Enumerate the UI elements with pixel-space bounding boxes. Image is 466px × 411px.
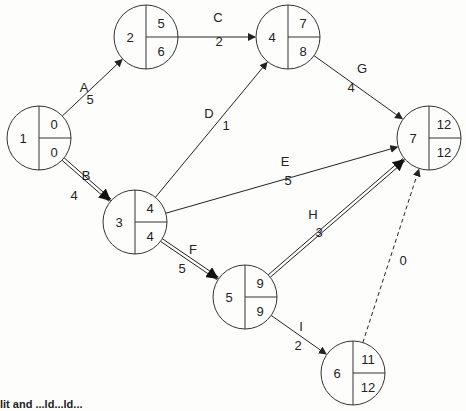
activity-duration: 2	[215, 34, 222, 49]
activity-label: B	[82, 168, 91, 183]
node-latest-time: 0	[50, 145, 57, 160]
network-diagram: A5B4C2D1E5F5G4H3I20 10025647834459971212…	[0, 0, 466, 411]
activity-F: F5	[161, 239, 219, 280]
node-earliest-time: 0	[50, 117, 57, 132]
node-earliest-time: 4	[146, 201, 153, 216]
node-id: 5	[225, 290, 232, 305]
activity-D: D1	[155, 62, 267, 197]
activity-label: E	[281, 154, 290, 169]
node-latest-time: 4	[146, 229, 153, 244]
activity-dummy: 0	[363, 169, 419, 342]
node-latest-time: 8	[299, 44, 306, 59]
node-3: 344	[103, 190, 167, 254]
activity-G: G4	[314, 56, 402, 119]
activity-label: I	[299, 319, 303, 334]
node-2: 256	[114, 5, 178, 69]
activity-duration: 1	[222, 118, 229, 133]
activity-label: F	[189, 242, 197, 257]
caption-fragment: lit and ...ld...ld...	[0, 398, 83, 410]
node-latest-time: 9	[256, 304, 263, 319]
node-earliest-time: 9	[256, 276, 263, 291]
activity-label: D	[204, 106, 213, 121]
activity-duration: 5	[86, 92, 93, 107]
activity-label: C	[213, 10, 222, 25]
node-earliest-time: 11	[361, 352, 375, 367]
node-4: 478	[256, 5, 320, 69]
node-id: 7	[409, 131, 416, 146]
node-latest-time: 12	[437, 145, 451, 160]
activity-duration: 5	[284, 173, 291, 188]
node-id: 3	[115, 215, 122, 230]
activity-duration: 5	[178, 261, 185, 276]
node-latest-time: 6	[157, 44, 164, 59]
node-earliest-time: 5	[157, 16, 164, 31]
node-earliest-time: 7	[299, 16, 306, 31]
node-5: 599	[213, 265, 277, 329]
node-latest-time: 12	[361, 380, 375, 395]
diagram-canvas: A5B4C2D1E5F5G4H3I20 10025647834459971212…	[0, 0, 466, 411]
activity-duration: 4	[70, 188, 77, 203]
activity-E: E5	[166, 147, 398, 213]
node-1: 100	[7, 106, 71, 170]
activity-duration: 3	[315, 225, 322, 240]
activity-label: G	[357, 61, 367, 76]
activity-I: I2	[271, 315, 326, 354]
node-id: 2	[126, 30, 133, 45]
activity-duration: 4	[347, 80, 354, 95]
activity-duration: 2	[294, 338, 301, 353]
node-id: 4	[268, 30, 275, 45]
activity-A: A5	[62, 60, 122, 116]
node-earliest-time: 12	[437, 117, 451, 132]
node-7: 71212	[397, 106, 461, 170]
node-id: 6	[333, 366, 340, 381]
activity-label: H	[308, 207, 317, 222]
activity-C: C2	[178, 10, 255, 49]
node-id: 1	[19, 131, 26, 146]
activity-duration: 0	[399, 253, 406, 268]
node-6: 61112	[321, 341, 385, 405]
activity-B: B4	[62, 158, 111, 203]
